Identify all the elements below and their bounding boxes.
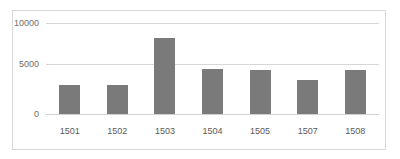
bar-series	[46, 23, 379, 114]
x-tick-label-4: 1505	[236, 127, 284, 136]
y-tick-label-10000: 10000	[0, 19, 39, 28]
bar-slot	[94, 23, 142, 114]
bar-slot	[189, 23, 237, 114]
bar-1504[interactable]	[202, 69, 223, 114]
x-tick-label-6: 1508	[331, 127, 379, 136]
bar-slot	[236, 23, 284, 114]
x-tick-label-0: 1501	[46, 127, 94, 136]
bar-slot	[331, 23, 379, 114]
plot-area: 10000 5000 0	[46, 23, 379, 114]
bar-1508[interactable]	[345, 70, 366, 114]
x-tick-label-1: 1502	[94, 127, 142, 136]
bar-1505[interactable]	[250, 70, 271, 114]
x-tick-label-5: 1507	[284, 127, 332, 136]
gridline-0	[46, 114, 379, 115]
x-tick-label-3: 1504	[189, 127, 237, 136]
chart-frame: 10000 5000 0 1501 1502 1503 1504 1505 15…	[12, 10, 386, 150]
bar-1507[interactable]	[297, 80, 318, 114]
x-axis-labels: 1501 1502 1503 1504 1505 1507 1508	[46, 127, 379, 136]
bar-slot	[141, 23, 189, 114]
bar-slot	[284, 23, 332, 114]
bar-1502[interactable]	[107, 85, 128, 114]
bar-1503[interactable]	[154, 38, 175, 114]
y-tick-label-0: 0	[0, 110, 39, 119]
y-tick-label-5000: 5000	[0, 60, 39, 69]
bar-slot	[46, 23, 94, 114]
x-tick-label-2: 1503	[141, 127, 189, 136]
bar-1501[interactable]	[59, 85, 80, 114]
